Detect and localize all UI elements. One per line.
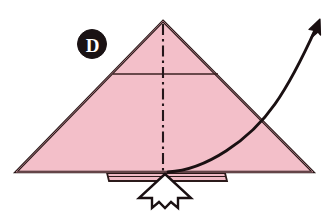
step-badge-label: D [86, 35, 100, 56]
step-badge: D [78, 30, 107, 59]
origami-figure: D [0, 0, 334, 211]
origami-diagram-canvas: D Step D: pink triangle with vertical da… [0, 0, 334, 211]
